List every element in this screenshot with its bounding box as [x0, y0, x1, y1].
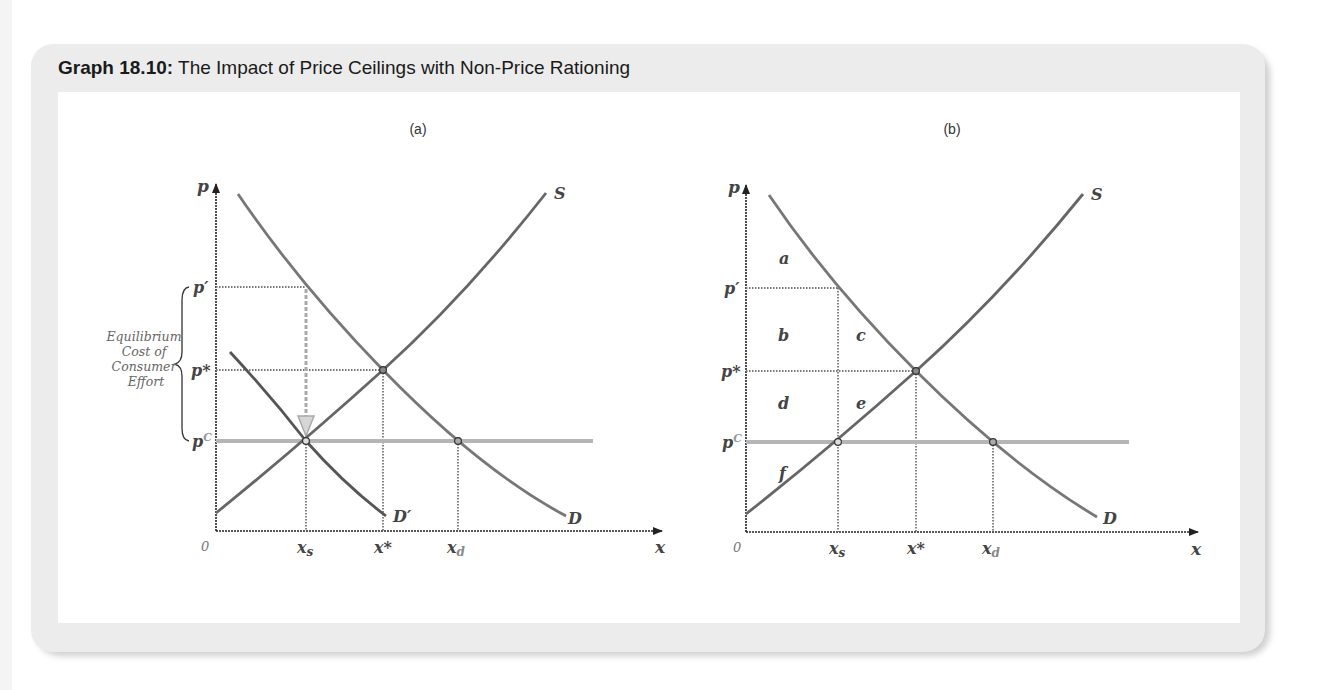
demand-ceiling-point [990, 439, 997, 446]
y-axis-label: p [197, 176, 209, 196]
equilibrium-point [380, 367, 387, 374]
p-c-superscript: C [733, 432, 742, 445]
chart-panel-b: (b) p x 0 S D p′ p* pC xs x* xd a b c d [721, 121, 1202, 560]
p-c-label: pC [722, 432, 742, 452]
x-s-label: xs [296, 538, 314, 559]
y-axis-label: p [728, 177, 740, 197]
consumer-effort-note: Equilibrium Cost of Consumer Effort [105, 329, 185, 389]
x-d-label: xd [981, 539, 1001, 560]
x-s-base: x [828, 539, 839, 558]
p-c-base: p [722, 433, 733, 452]
x-d-base: x [981, 539, 992, 558]
charts-canvas: (a) p x 0 S D D′ p′ [0, 0, 1329, 690]
note-line-2: Cost of [122, 344, 169, 359]
x-axis-label: x [1190, 539, 1202, 559]
note-line-3: Consumer [112, 359, 178, 374]
p-star-label: p* [721, 362, 741, 381]
x-s-subscript: s [839, 546, 846, 560]
equilibrium-point [913, 368, 920, 375]
supply-ceiling-point [303, 438, 310, 445]
p-star-label: p* [191, 361, 211, 380]
supply-curve [746, 194, 1083, 514]
effective-demand-curve [230, 352, 386, 516]
area-b-label: b [778, 326, 789, 345]
demand-label: D [567, 509, 582, 528]
x-star-label: x* [906, 539, 926, 558]
x-d-base: x [446, 538, 457, 557]
origin-label: 0 [201, 539, 209, 554]
supply-curve [216, 193, 546, 513]
area-c-label: c [856, 326, 866, 345]
p-c-label: pC [192, 431, 212, 451]
x-s-subscript: s [307, 545, 314, 559]
area-a-label: a [779, 249, 789, 268]
x-d-subscript: d [457, 545, 466, 559]
demand-curve [238, 194, 566, 516]
supply-label: S [554, 184, 566, 203]
chart-panel-a: (a) p x 0 S D D′ p′ [105, 121, 666, 559]
note-line-1: Equilibrium [105, 329, 181, 344]
effective-demand-label: D′ [392, 507, 412, 526]
p-c-base: p [192, 432, 203, 451]
x-d-label: xd [446, 538, 466, 559]
p-c-superscript: C [203, 431, 212, 444]
panel-a-label: (a) [409, 121, 426, 137]
p-prime-label: p′ [724, 279, 740, 298]
panel-b-label: (b) [943, 121, 960, 137]
x-s-label: xs [828, 539, 846, 560]
area-e-label: e [856, 394, 866, 413]
x-axis-label: x [654, 537, 666, 557]
supply-ceiling-point [835, 439, 842, 446]
note-line-4: Effort [127, 374, 165, 389]
x-d-subscript: d [992, 546, 1001, 560]
demand-label: D [1102, 509, 1117, 528]
supply-label: S [1091, 185, 1103, 204]
x-star-label: x* [373, 538, 393, 557]
demand-ceiling-point [455, 438, 462, 445]
area-d-label: d [778, 394, 789, 413]
x-s-base: x [296, 538, 307, 557]
p-prime-label: p′ [193, 278, 209, 297]
origin-label: 0 [733, 540, 741, 555]
